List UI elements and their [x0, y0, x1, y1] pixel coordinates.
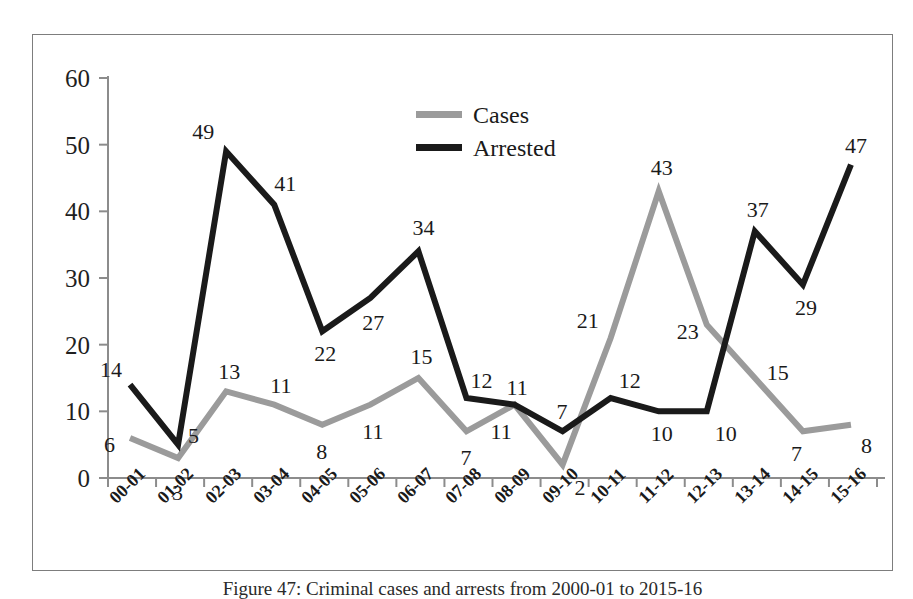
point-label-arrested-11-12: 10	[651, 423, 673, 445]
figure-caption: Figure 47: Criminal cases and arrests fr…	[32, 578, 893, 599]
point-label-cases-14-15: 7	[791, 443, 802, 465]
y-tick-label: 20	[44, 333, 90, 358]
point-label-cases-15-16: 8	[861, 435, 872, 457]
point-label-cases-06-07: 15	[410, 346, 432, 368]
y-tick-label: 50	[44, 133, 90, 158]
point-label-cases-03-04: 11	[270, 375, 291, 397]
legend-swatch-arrested	[416, 144, 462, 151]
point-label-cases-12-13: 23	[677, 321, 699, 343]
point-label-arrested-08-09: 11	[507, 377, 528, 399]
point-label-cases-09-10: 2	[575, 477, 586, 499]
y-tick-label: 0	[44, 466, 90, 491]
point-label-arrested-09-10: 7	[557, 401, 568, 423]
point-label-arrested-13-14: 37	[747, 199, 769, 221]
legend-item-cases[interactable]: Cases	[416, 98, 606, 131]
point-label-arrested-07-08: 12	[470, 370, 492, 392]
y-tick-label: 30	[44, 266, 90, 291]
point-label-cases-08-09: 11	[491, 421, 512, 443]
legend-swatch-cases	[416, 111, 462, 118]
point-label-arrested-03-04: 41	[274, 173, 296, 195]
point-label-cases-11-12: 43	[651, 157, 673, 179]
y-tick-label: 40	[44, 199, 90, 224]
point-label-cases-01-02: 3	[172, 482, 183, 504]
chart-legend: Cases Arrested	[416, 98, 606, 164]
figure-root: 0102030405060 00-0101-0202-0303-0404-050…	[0, 0, 913, 599]
chart-series-lines	[130, 151, 851, 464]
point-label-arrested-02-03: 49	[192, 121, 214, 143]
point-label-arrested-06-07: 34	[412, 217, 434, 239]
point-label-cases-13-14: 15	[767, 362, 789, 384]
point-label-cases-04-05: 8	[316, 441, 327, 463]
point-label-arrested-10-11: 12	[619, 370, 641, 392]
point-label-arrested-15-16: 47	[845, 135, 867, 157]
point-label-cases-10-11: 21	[577, 310, 599, 332]
y-tick-label: 10	[44, 399, 90, 424]
point-label-arrested-05-06: 27	[362, 312, 384, 334]
y-tick-label: 60	[44, 66, 90, 91]
point-label-cases-05-06: 11	[362, 421, 383, 443]
chart-plot-area	[0, 0, 913, 599]
legend-label-cases: Cases	[473, 103, 529, 127]
legend-label-arrested: Arrested	[473, 136, 556, 160]
point-label-arrested-12-13: 10	[715, 423, 737, 445]
point-label-cases-07-08: 7	[460, 447, 471, 469]
point-label-arrested-04-05: 22	[314, 343, 336, 365]
point-label-arrested-00-01: 14	[100, 359, 122, 381]
point-label-arrested-14-15: 29	[795, 297, 817, 319]
point-label-cases-02-03: 13	[218, 361, 240, 383]
point-label-arrested-01-02: 5	[188, 425, 199, 447]
legend-item-arrested[interactable]: Arrested	[416, 131, 606, 164]
point-label-cases-00-01: 6	[104, 434, 115, 456]
